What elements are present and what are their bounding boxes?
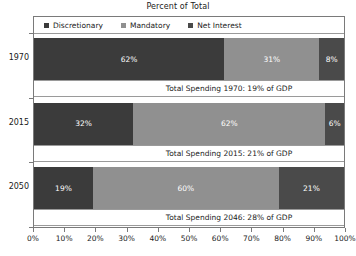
y-axis-label-1970: 1970 bbox=[0, 53, 29, 62]
x-axis-tick bbox=[127, 228, 128, 232]
bar-value-label: 6% bbox=[329, 119, 341, 128]
bar-segment-net-interest-1970[interactable]: 8% bbox=[319, 38, 344, 80]
stacked-bar-chart: Percent of Total Discretionary Mandatory… bbox=[0, 0, 356, 256]
bar-segment-discretionary-2050[interactable]: 19% bbox=[34, 167, 93, 209]
chart-title: Percent of Total bbox=[0, 2, 356, 11]
bar-value-label: 60% bbox=[178, 184, 195, 193]
x-axis-tick bbox=[283, 228, 284, 232]
bar-segment-net-interest-2050[interactable]: 21% bbox=[279, 167, 344, 209]
y-axis-tick bbox=[29, 33, 33, 34]
legend-item-mandatory[interactable]: Mandatory bbox=[121, 21, 170, 30]
x-axis-tick-label: 10% bbox=[51, 234, 77, 243]
legend-label-net-interest: Net Interest bbox=[197, 21, 241, 30]
legend-swatch-icon-net-interest bbox=[188, 23, 193, 28]
annotation-row-1970: Total Spending 1970: 19% of GDP bbox=[34, 80, 344, 97]
stacked-bar-2050[interactable]: 19% 60% 21% bbox=[34, 167, 344, 209]
y-axis-tick bbox=[29, 227, 33, 228]
chart-legend: Discretionary Mandatory Net Interest bbox=[34, 17, 344, 34]
y-axis-label-2015: 2015 bbox=[0, 118, 29, 127]
bar-segment-mandatory-2050[interactable]: 60% bbox=[93, 167, 279, 209]
legend-label-mandatory: Mandatory bbox=[130, 21, 170, 30]
bar-segment-discretionary-1970[interactable]: 62% bbox=[34, 38, 224, 80]
x-axis-tick bbox=[158, 228, 159, 232]
x-axis-tick bbox=[251, 228, 252, 232]
x-axis-tick-label: 50% bbox=[176, 234, 202, 243]
bar-value-label: 19% bbox=[55, 184, 72, 193]
bar-group-1970: 62% 31% 8% Total Spending 1970: 19% of G… bbox=[34, 34, 344, 99]
x-axis-tick-label: 80% bbox=[270, 234, 296, 243]
x-axis-tick-label: 60% bbox=[207, 234, 233, 243]
x-axis-tick bbox=[33, 228, 34, 232]
bar-segment-mandatory-2015[interactable]: 62% bbox=[133, 103, 325, 145]
bar-segment-mandatory-1970[interactable]: 31% bbox=[224, 38, 319, 80]
x-axis-tick-label: 100% bbox=[332, 234, 356, 243]
bar-segment-discretionary-2015[interactable]: 32% bbox=[34, 103, 133, 145]
bar-value-label: 31% bbox=[264, 55, 281, 64]
x-axis-tick-label: 30% bbox=[114, 234, 140, 243]
bar-value-label: 62% bbox=[221, 119, 238, 128]
bar-value-label: 62% bbox=[121, 55, 138, 64]
bar-value-label: 8% bbox=[326, 55, 338, 64]
annotation-text: Total Spending 2015: 21% of GDP bbox=[86, 149, 292, 158]
legend-label-discretionary: Discretionary bbox=[53, 21, 103, 30]
x-axis-tick-label: 90% bbox=[301, 234, 327, 243]
legend-item-discretionary[interactable]: Discretionary bbox=[44, 21, 103, 30]
x-axis-tick-label: 20% bbox=[82, 234, 108, 243]
x-axis-tick-label: 70% bbox=[238, 234, 264, 243]
legend-swatch-icon-discretionary bbox=[44, 23, 49, 28]
bar-value-label: 32% bbox=[75, 119, 92, 128]
plot-area: Discretionary Mandatory Net Interest 62%… bbox=[33, 16, 345, 228]
x-axis-tick bbox=[95, 228, 96, 232]
annotation-text: Total Spending 2046: 28% of GDP bbox=[86, 213, 292, 222]
bar-group-2050: 19% 60% 21% Total Spending 2046: 28% of … bbox=[34, 163, 344, 228]
bar-groups: 62% 31% 8% Total Spending 1970: 19% of G… bbox=[34, 34, 344, 228]
y-axis-tick bbox=[29, 98, 33, 99]
x-axis-tick bbox=[64, 228, 65, 232]
stacked-bar-2015[interactable]: 32% 62% 6% bbox=[34, 103, 344, 145]
legend-item-net-interest[interactable]: Net Interest bbox=[188, 21, 241, 30]
x-axis-tick-label: 40% bbox=[145, 234, 171, 243]
y-axis-tick bbox=[29, 162, 33, 163]
stacked-bar-1970[interactable]: 62% 31% 8% bbox=[34, 38, 344, 80]
annotation-text: Total Spending 1970: 19% of GDP bbox=[86, 84, 292, 93]
bar-segment-net-interest-2015[interactable]: 6% bbox=[325, 103, 344, 145]
x-axis-tick-label: 0% bbox=[20, 234, 46, 243]
annotation-row-2015: Total Spending 2015: 21% of GDP bbox=[34, 145, 344, 162]
legend-swatch-icon-mandatory bbox=[121, 23, 126, 28]
x-axis-tick bbox=[220, 228, 221, 232]
y-axis-label-2050: 2050 bbox=[0, 182, 29, 191]
bar-value-label: 21% bbox=[303, 184, 320, 193]
x-axis-tick bbox=[345, 228, 346, 232]
bar-group-2015: 32% 62% 6% Total Spending 2015: 21% of G… bbox=[34, 99, 344, 164]
annotation-row-2050: Total Spending 2046: 28% of GDP bbox=[34, 209, 344, 226]
x-axis-tick bbox=[314, 228, 315, 232]
x-axis-tick bbox=[189, 228, 190, 232]
